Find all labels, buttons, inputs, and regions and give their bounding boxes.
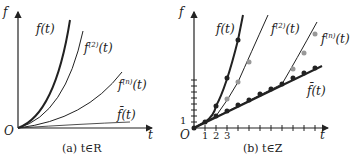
panel-a-x-axis-label: t xyxy=(148,128,153,142)
panel-a-label-f: f(t) xyxy=(36,22,55,36)
panel-a-caption: (a) t∈R xyxy=(62,142,101,155)
panel-a-curves xyxy=(18,20,130,128)
panel-a-label-fbar: f̄(t) xyxy=(117,108,136,122)
panel-a-origin: O xyxy=(4,124,14,138)
panel-b-x-tick-1: 1 xyxy=(202,130,208,141)
panel-a-label-fn: f(n)(t) xyxy=(118,78,147,92)
panel-b-caption: (b) t∈Z xyxy=(243,142,282,155)
panel-b-y-tick-1: 1 xyxy=(180,115,186,126)
panel-b-axes xyxy=(191,12,328,131)
panel-a-y-axis-label: f xyxy=(3,5,7,19)
panel-b-label-fbar: f̄(t) xyxy=(307,84,326,98)
panel-b-label-fn: f(n)(t) xyxy=(321,32,350,46)
panel-b-label-f: f(t) xyxy=(216,22,235,36)
panel-b-x-tick-3: 3 xyxy=(224,130,230,141)
panel-b-y-axis-label: f xyxy=(179,5,183,19)
panel-b-label-f2: f(2)(t) xyxy=(271,22,300,36)
panel-b-origin: O xyxy=(180,128,190,142)
panel-b-x-tick-2: 2 xyxy=(213,130,219,141)
panel-a-label-f2: f(2)(t) xyxy=(84,41,113,55)
panel-b-x-axis-label: t xyxy=(320,128,325,142)
